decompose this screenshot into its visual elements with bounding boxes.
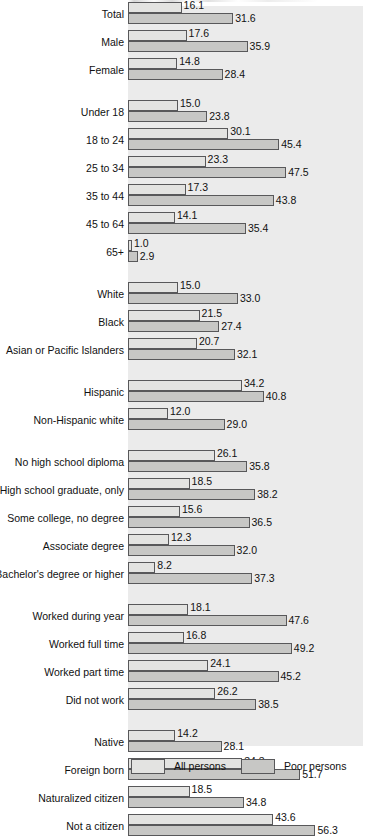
row-bars: 18.147.6 xyxy=(128,602,371,630)
bar-value-poor: 47.5 xyxy=(288,167,308,178)
chart-row: 45 to 6414.135.4 xyxy=(0,210,371,238)
bar-value-poor: 28.4 xyxy=(225,69,245,80)
chart-row: Worked full time16.849.2 xyxy=(0,630,371,658)
bar-value-poor: 45.4 xyxy=(281,139,301,150)
chart-group-ethnicity: Hispanic34.240.8Non-Hispanic white12.029… xyxy=(0,378,371,434)
row-bars: 24.145.2 xyxy=(128,658,371,686)
bar-value-all: 16.1 xyxy=(184,0,204,11)
bar-all xyxy=(128,338,197,349)
chart-row: 35 to 4417.343.8 xyxy=(0,182,371,210)
bar-value-poor: 38.5 xyxy=(258,699,278,710)
bar-value-all: 18.1 xyxy=(190,602,210,613)
bar-all xyxy=(128,282,178,293)
bar-value-all: 18.5 xyxy=(192,476,212,487)
legend-swatch-all-persons xyxy=(131,759,165,774)
row-bars: 1.02.9 xyxy=(128,238,371,266)
chart-legend: All persons Poor persons xyxy=(0,757,371,781)
row-bars: 34.240.8 xyxy=(128,378,371,406)
bar-poor xyxy=(128,671,279,682)
bar-value-all: 17.3 xyxy=(188,182,208,193)
row-label: Asian or Pacific Islanders xyxy=(6,344,124,356)
chart-row: No high school diploma26.135.8 xyxy=(0,448,371,476)
row-label: No high school diploma xyxy=(15,456,124,468)
bar-value-poor: 27.4 xyxy=(221,321,241,332)
chart-row: 65+1.02.9 xyxy=(0,238,371,266)
row-label: 18 to 24 xyxy=(86,134,124,146)
bar-all xyxy=(128,240,132,251)
group-separator xyxy=(0,364,371,378)
row-bars: 17.343.8 xyxy=(128,182,371,210)
chart-row: Asian or Pacific Islanders20.732.1 xyxy=(0,336,371,364)
row-label: Black xyxy=(98,316,124,328)
bar-poor xyxy=(128,13,233,24)
chart-row: Hispanic34.240.8 xyxy=(0,378,371,406)
row-bars: 15.033.0 xyxy=(128,280,371,308)
bar-poor xyxy=(128,615,287,626)
bar-value-all: 15.6 xyxy=(182,504,202,515)
row-label: 45 to 64 xyxy=(86,218,124,230)
group-separator xyxy=(0,434,371,448)
bar-poor xyxy=(128,489,255,500)
bar-all xyxy=(128,730,175,741)
bar-value-poor: 49.2 xyxy=(294,643,314,654)
row-bars: 26.238.5 xyxy=(128,686,371,714)
bar-poor xyxy=(128,167,286,178)
bar-all xyxy=(128,212,175,223)
bar-value-poor: 2.9 xyxy=(140,251,155,262)
chart-row: Some college, no degree15.636.5 xyxy=(0,504,371,532)
bar-value-poor: 23.8 xyxy=(209,111,229,122)
bar-all xyxy=(128,660,208,671)
row-label: Native xyxy=(94,736,124,748)
chart-group-overall-and-sex: Total16.131.6Male17.635.9Female14.828.4 xyxy=(0,0,371,84)
chart-row: Non-Hispanic white12.029.0 xyxy=(0,406,371,434)
bar-all xyxy=(128,604,188,615)
group-separator xyxy=(0,266,371,280)
chart-row: Under 1815.023.8 xyxy=(0,98,371,126)
row-label: Worked part time xyxy=(44,666,124,678)
bar-poor xyxy=(128,643,292,654)
bar-value-all: 14.2 xyxy=(177,728,197,739)
legend-swatch-poor-persons xyxy=(241,759,275,774)
row-bars: 12.029.0 xyxy=(128,406,371,434)
bar-value-poor: 32.1 xyxy=(237,349,257,360)
bar-all xyxy=(128,100,178,111)
bar-value-poor: 31.6 xyxy=(235,13,255,24)
row-label: Associate degree xyxy=(43,540,124,552)
bar-value-poor: 35.4 xyxy=(248,223,268,234)
bar-poor xyxy=(128,251,138,262)
chart-group-nativity: Native14.228.1Foreign born34.351.7Natura… xyxy=(0,728,371,840)
bar-value-all: 15.0 xyxy=(180,98,200,109)
bar-value-all: 34.2 xyxy=(244,378,264,389)
bar-value-all: 1.0 xyxy=(134,238,149,249)
bar-poor xyxy=(128,391,264,402)
bar-value-all: 14.1 xyxy=(177,210,197,221)
bar-all xyxy=(128,58,177,69)
bar-value-all: 16.8 xyxy=(186,630,206,641)
group-separator xyxy=(0,714,371,728)
group-separator xyxy=(0,84,371,98)
bar-value-all: 26.1 xyxy=(217,448,237,459)
row-bars: 43.656.3 xyxy=(128,812,371,840)
bar-poor xyxy=(128,41,248,52)
bar-poor xyxy=(128,699,256,710)
bar-all xyxy=(128,534,169,545)
bar-value-all: 12.3 xyxy=(171,532,191,543)
bar-value-all: 17.6 xyxy=(189,28,209,39)
bar-value-all: 21.5 xyxy=(202,308,222,319)
chart-row: Naturalized citizen18.534.8 xyxy=(0,784,371,812)
row-label: Female xyxy=(89,64,124,76)
bar-poor xyxy=(128,293,238,304)
bar-value-poor: 35.9 xyxy=(250,41,270,52)
row-bars: 14.228.1 xyxy=(128,728,371,756)
bar-value-all: 18.5 xyxy=(192,784,212,795)
row-bars: 8.237.3 xyxy=(128,560,371,588)
row-bars: 30.145.4 xyxy=(128,126,371,154)
bar-poor xyxy=(128,797,244,808)
bar-value-poor: 35.8 xyxy=(249,461,269,472)
chart-row: Associate degree12.332.0 xyxy=(0,532,371,560)
row-bars: 16.131.6 xyxy=(128,0,371,28)
bar-value-poor: 45.2 xyxy=(281,671,301,682)
chart-row: Worked during year18.147.6 xyxy=(0,602,371,630)
chart-row: Not a citizen43.656.3 xyxy=(0,812,371,840)
